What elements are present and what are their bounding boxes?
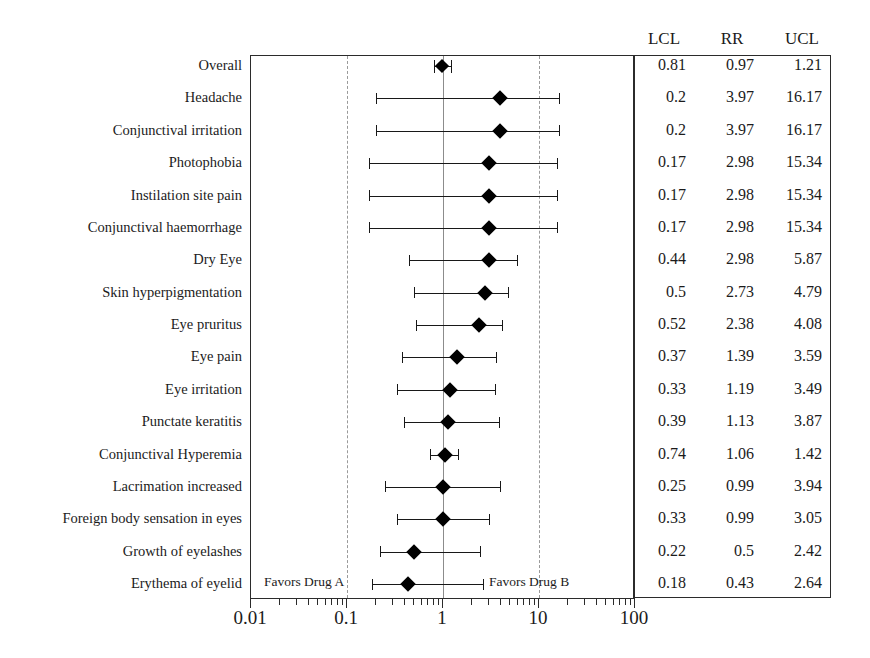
lower-cap — [376, 93, 377, 104]
axis-tick-minor — [438, 599, 439, 605]
axis-tick-minor — [404, 599, 405, 605]
category-label: Conjunctival Hyperemia — [99, 447, 242, 462]
axis-tick-minor — [625, 599, 626, 605]
category-label: Punctate keratitis — [142, 414, 242, 429]
category-label: Overall — [199, 58, 242, 73]
table-column-header: LCL — [648, 30, 680, 47]
category-label: Conjunctival haemorrhage — [88, 220, 242, 235]
point-estimate-marker — [471, 317, 487, 333]
axis-tick-minor — [613, 599, 614, 605]
confidence-interval-line — [369, 163, 557, 164]
category-label: Conjunctival irritation — [113, 123, 242, 138]
lower-cap — [369, 158, 370, 169]
point-estimate-marker — [438, 447, 454, 463]
lower-cap — [430, 449, 431, 460]
point-estimate-marker — [406, 544, 422, 560]
axis-tick-minor — [392, 599, 393, 605]
table-cell: 4.08 — [702, 316, 822, 332]
category-label: Erythema of eyelid — [131, 576, 242, 591]
upper-cap — [559, 93, 560, 104]
axis-tick-minor — [279, 599, 280, 605]
table-cell: 15.34 — [702, 187, 822, 203]
upper-cap — [557, 190, 558, 201]
lower-cap — [402, 352, 403, 363]
confidence-interval-line — [414, 293, 508, 294]
axis-tick-label: 100 — [620, 608, 649, 627]
axis-tick-label: 1 — [437, 608, 447, 627]
upper-cap — [483, 579, 484, 590]
table-cell: 1.42 — [702, 446, 822, 462]
axis-tick-minor — [296, 599, 297, 605]
table-cell: 3.59 — [702, 348, 822, 364]
point-estimate-marker — [493, 91, 509, 107]
table-cell: 15.34 — [702, 219, 822, 235]
lower-cap — [376, 125, 377, 136]
axis-tick-label: 0.1 — [334, 608, 358, 627]
point-estimate-marker — [481, 252, 497, 268]
point-estimate-marker — [435, 511, 451, 527]
table-cell: 1.21 — [702, 57, 822, 73]
category-label: Instilation site pain — [131, 188, 242, 203]
gridline — [347, 56, 348, 598]
table-cell: 4.79 — [702, 284, 822, 300]
axis-tick-minor — [517, 599, 518, 605]
axis-tick-minor — [488, 599, 489, 605]
category-label: Lacrimation increased — [113, 479, 242, 494]
table-cell: 5.87 — [702, 251, 822, 267]
axis-tick-minor — [534, 599, 535, 605]
upper-cap — [517, 255, 518, 266]
lower-cap — [369, 190, 370, 201]
upper-cap — [557, 222, 558, 233]
confidence-interval-line — [369, 228, 557, 229]
upper-cap — [480, 546, 481, 557]
axis-tick-minor — [308, 599, 309, 605]
table-cell: 3.87 — [702, 413, 822, 429]
upper-cap — [495, 384, 496, 395]
lower-cap — [416, 320, 417, 331]
table-cell: 3.94 — [702, 478, 822, 494]
confidence-interval-line — [380, 552, 480, 553]
axis-tick-minor — [433, 599, 434, 605]
table-column-header: UCL — [785, 30, 819, 47]
lower-cap — [397, 384, 398, 395]
axis-tick-label: 10 — [529, 608, 548, 627]
upper-cap — [489, 514, 490, 525]
lower-cap — [404, 417, 405, 428]
point-estimate-marker — [449, 350, 465, 366]
point-estimate-marker — [477, 285, 493, 301]
axis-tick-minor — [605, 599, 606, 605]
axis-tick-minor — [509, 599, 510, 605]
axis-tick-minor — [619, 599, 620, 605]
axis-tick-minor — [471, 599, 472, 605]
x-axis — [250, 598, 635, 599]
axis-tick-minor — [421, 599, 422, 605]
point-estimate-marker — [493, 123, 509, 139]
confidence-interval-line — [409, 260, 517, 261]
axis-tick-minor — [529, 599, 530, 605]
lower-cap — [369, 222, 370, 233]
category-label: Foreign body sensation in eyes — [62, 511, 242, 526]
confidence-interval-line — [416, 325, 502, 326]
axis-tick-minor — [630, 599, 631, 605]
axis-tick-minor — [342, 599, 343, 605]
upper-cap — [508, 287, 509, 298]
lower-cap — [380, 546, 381, 557]
table-cell: 15.34 — [702, 154, 822, 170]
point-estimate-marker — [442, 382, 458, 398]
upper-cap — [451, 60, 452, 73]
axis-tick-minor — [375, 599, 376, 605]
confidence-interval-line — [376, 98, 559, 99]
table-cell: 3.05 — [702, 510, 822, 526]
table-cell: 16.17 — [702, 122, 822, 138]
table-cell: 2.64 — [702, 575, 822, 591]
gridline — [539, 56, 540, 598]
category-label: Skin hyperpigmentation — [102, 285, 242, 300]
forest-plot-figure: OverallHeadacheConjunctival irritationPh… — [0, 0, 870, 658]
point-estimate-marker — [481, 155, 497, 171]
lower-cap — [409, 255, 410, 266]
axis-tick-minor — [523, 599, 524, 605]
upper-cap — [559, 125, 560, 136]
favors-drug-b-label: Favors Drug B — [489, 575, 569, 589]
category-label: Eye irritation — [165, 382, 242, 397]
axis-tick-minor — [584, 599, 585, 605]
